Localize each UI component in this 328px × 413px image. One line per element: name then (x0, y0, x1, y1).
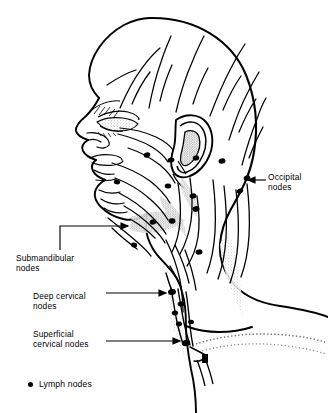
leader-submandibular (60, 223, 128, 250)
label-occipital-nodes: Occipital nodes (268, 172, 301, 192)
leader-occipital (248, 177, 266, 183)
label-superficial-cervical-nodes: Superficial cervical nodes (33, 329, 89, 349)
figure-canvas: Occipital nodes Submandibular nodes Deep… (0, 0, 328, 413)
anatomy-illustration (0, 0, 328, 413)
label-submandibular-nodes: Submandibular nodes (16, 253, 74, 273)
leader-deep-cervical (106, 290, 166, 296)
label-deep-cervical-nodes: Deep cervical nodes (33, 291, 86, 311)
leader-superficial-cervical (106, 338, 180, 344)
legend-label: Lymph nodes (39, 379, 92, 389)
